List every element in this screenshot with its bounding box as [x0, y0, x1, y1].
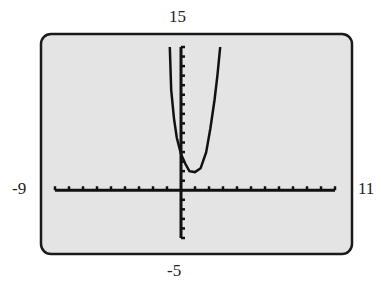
ymin-label: -5 — [167, 262, 181, 279]
ymax-label: 15 — [169, 8, 186, 25]
screen-frame — [41, 34, 352, 254]
graph-screen — [0, 0, 376, 291]
xmax-label: 11 — [358, 180, 374, 197]
xmin-label: -9 — [12, 180, 26, 197]
